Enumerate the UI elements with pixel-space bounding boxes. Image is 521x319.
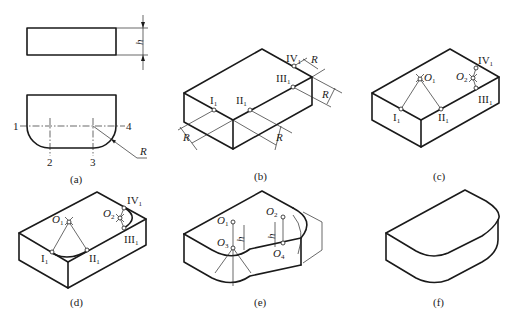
center-O1 <box>418 77 422 81</box>
radius-label-top: R <box>310 53 318 65</box>
panel-a-orthographic-views: h 1 4 2 3 R (a) <box>13 15 148 186</box>
centerline-label-1: 1 <box>13 120 19 132</box>
front-view-rect <box>27 28 116 55</box>
label-IV1: IV1 <box>127 194 143 208</box>
center-O2 <box>118 216 122 220</box>
finished-top-face <box>386 190 499 256</box>
panel-d-top-arcs-drawn: O1 O2 I1 II1 III1 IV1 (d) <box>19 192 146 309</box>
finished-side-faces <box>386 220 498 283</box>
radius-label-left: R <box>182 131 190 143</box>
top-view-outline <box>27 95 116 148</box>
arc-side-corner-top <box>293 208 307 238</box>
label-O2: O2 <box>103 207 115 221</box>
perp-II1-O1 <box>69 222 87 250</box>
construction-line-right <box>233 248 251 273</box>
radius-label-bottom: R <box>275 131 283 143</box>
arc-side-corner-lower <box>293 215 301 254</box>
label-O1: O1 <box>52 213 64 227</box>
label-II1: II1 <box>438 111 449 125</box>
ext-line-corner-right <box>233 120 276 145</box>
dim-arrow-bottom-icon <box>141 55 145 61</box>
box-left-face <box>184 93 233 149</box>
dim-label-h-left: h <box>234 236 246 242</box>
label-III1: III1 <box>276 72 291 86</box>
caption-b: (b) <box>254 170 267 183</box>
panel-b-isometric-box-with-tangent-points: R R R R I1 II1 III1 IV1 (b) <box>178 49 342 183</box>
center-O2 <box>281 215 285 219</box>
label-IV1: IV1 <box>286 52 302 66</box>
label-IV1: IV1 <box>478 54 494 68</box>
label-I1: I1 <box>393 111 401 125</box>
construction-line-left <box>215 248 233 273</box>
label-O1: O1 <box>217 214 229 228</box>
label-II1: II1 <box>236 94 247 108</box>
ext-line-corner-left <box>192 120 233 143</box>
caption-e: (e) <box>254 296 267 309</box>
perp-I1-O1 <box>401 79 420 109</box>
tangent-point-IV1 <box>474 66 478 70</box>
center-O3 <box>231 246 235 250</box>
tangent-point-III1 <box>291 85 295 89</box>
label-O4: O4 <box>273 247 285 261</box>
label-O1: O1 <box>424 71 436 85</box>
label-O3: O3 <box>217 236 229 250</box>
tangent-point-III1 <box>474 86 478 90</box>
box-right-face <box>68 219 146 288</box>
dim-label-h: h <box>133 39 145 45</box>
caption-d: (d) <box>70 296 83 309</box>
radius-label-right: R <box>321 88 329 100</box>
label-I1: I1 <box>41 252 49 266</box>
label-I1: I1 <box>210 94 218 108</box>
radius-arrow-icon <box>111 139 116 144</box>
label-O2: O2 <box>456 70 468 84</box>
tangent-point-IV1 <box>122 206 126 210</box>
tangent-point-II1 <box>248 108 252 112</box>
dim-label-h-right: h <box>265 233 277 239</box>
tangent-point-IV1 <box>292 64 296 68</box>
label-III1: III1 <box>478 93 493 107</box>
perp-II1-O1 <box>420 79 441 109</box>
centerline-label-2: 2 <box>47 156 53 168</box>
panel-e-centers-translated-down: h h O1 O2 O3 O4 (e) <box>184 191 322 309</box>
box-right-face <box>421 77 499 147</box>
centerline-label-3: 3 <box>90 156 96 168</box>
ext-line-corner-top <box>312 69 325 77</box>
tangent-point-I1 <box>50 250 54 254</box>
center-O1 <box>231 220 235 224</box>
panel-c-arc-centers: O1 O2 I1 II1 III1 IV1 (c) <box>372 49 499 183</box>
center-O2 <box>471 76 475 80</box>
dim-arrow-top-icon <box>141 22 145 28</box>
label-III1: III1 <box>124 233 139 247</box>
label-II1: II1 <box>89 252 100 266</box>
tangent-point-I1 <box>212 108 216 112</box>
isometric-rounded-block-construction-figure: h 1 4 2 3 R (a) R R R <box>0 0 521 319</box>
label-O2: O2 <box>266 205 278 219</box>
centerline-label-4: 4 <box>126 120 132 132</box>
caption-c: (c) <box>433 170 446 183</box>
caption-f: (f) <box>433 296 444 309</box>
arc-front-corner <box>52 251 87 257</box>
center-O4 <box>281 241 285 245</box>
panel-f-finished-rounded-block: (f) <box>386 190 499 309</box>
tangent-point-I1 <box>399 107 403 111</box>
center-O1 <box>67 220 71 224</box>
radius-label: R <box>139 145 147 157</box>
tangent-point-III1 <box>122 226 126 230</box>
ext-line-II1 <box>250 110 292 133</box>
caption-a: (a) <box>70 173 83 186</box>
